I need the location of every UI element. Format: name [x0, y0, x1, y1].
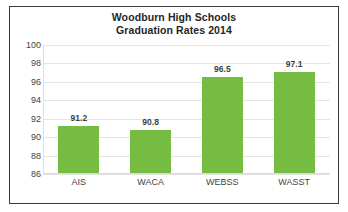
chart-title-line-2: Graduation Rates 2014 [10, 24, 338, 37]
y-axis-tick-label: 96 [13, 77, 41, 87]
chart-title-line-1: Woodburn High Schools [10, 11, 338, 24]
x-axis-line [43, 173, 330, 174]
bar[interactable] [274, 72, 315, 174]
bar-slot: 96.5 [202, 45, 243, 174]
bar-value-label: 97.1 [286, 59, 303, 69]
x-axis-category-labels: AISWACAWEBSSWASST [43, 177, 330, 193]
bar-slot: 91.2 [58, 45, 99, 174]
y-axis-tick-label: 100 [13, 40, 41, 50]
chart-title: Woodburn High Schools Graduation Rates 2… [10, 11, 338, 37]
bar-slot: 97.1 [274, 45, 315, 174]
y-axis-tick-label: 92 [13, 114, 41, 124]
plot-area: 91.290.896.597.1 [43, 45, 330, 174]
x-axis-category-label: WACA [115, 177, 187, 187]
bar-value-label: 90.8 [142, 117, 159, 127]
bar[interactable] [58, 126, 99, 174]
bar[interactable] [202, 77, 243, 174]
x-axis-category-label: WEBSS [187, 177, 259, 187]
y-axis-tick-label: 94 [13, 95, 41, 105]
y-axis-tick-label: 90 [13, 132, 41, 142]
y-axis-tick-label: 86 [13, 169, 41, 179]
chart-frame: Woodburn High Schools Graduation Rates 2… [9, 6, 339, 204]
y-axis-tick-labels: 10098969492908886 [10, 45, 41, 174]
bar[interactable] [130, 130, 171, 174]
x-axis-category-label: WASST [258, 177, 330, 187]
x-axis-category-label: AIS [43, 177, 115, 187]
y-axis-tick-label: 98 [13, 58, 41, 68]
bar-value-label: 91.2 [71, 113, 88, 123]
gridline [43, 174, 330, 175]
bar-value-label: 96.5 [214, 64, 231, 74]
bar-slot: 90.8 [130, 45, 171, 174]
y-axis-tick-label: 88 [13, 151, 41, 161]
